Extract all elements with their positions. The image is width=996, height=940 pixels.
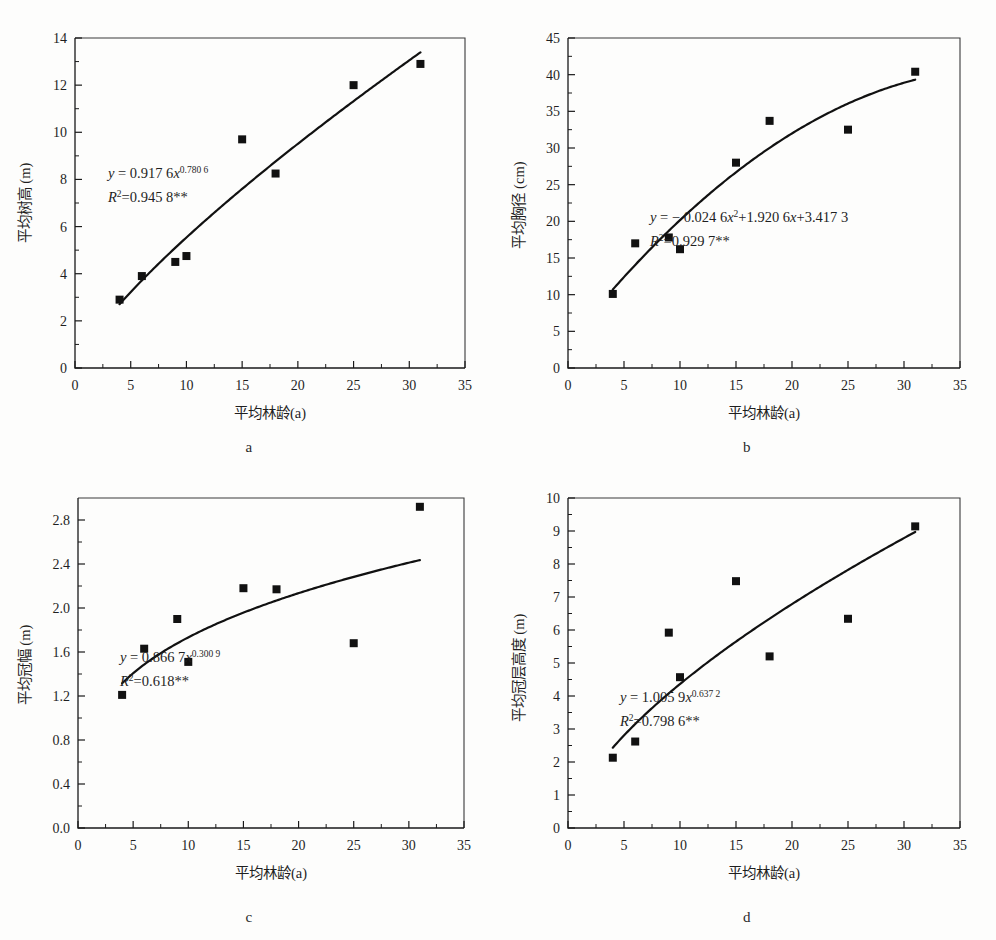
x-tick-label: 0 [565, 838, 572, 853]
panel-label-d: d [498, 909, 996, 926]
y-tick-label: 6 [60, 220, 67, 235]
data-point [631, 738, 639, 746]
data-point [138, 272, 146, 280]
x-axis-title: 平均林龄(a) [728, 405, 800, 422]
r-squared-annotation: R2=0.945 8** [107, 189, 188, 205]
y-tick-label: 14 [53, 31, 67, 46]
y-tick-label: 2 [60, 314, 67, 329]
y-tick-label: 4 [553, 689, 560, 704]
x-tick-label: 15 [729, 838, 743, 853]
y-tick-label: 20 [546, 214, 560, 229]
equation-annotation: y = − 0.024 6x2+1.920 6x+3.417 3 [648, 209, 848, 225]
y-tick-label: 6 [553, 623, 560, 638]
x-tick-label: 25 [841, 378, 855, 393]
data-point [766, 652, 774, 660]
x-tick-label: 25 [347, 378, 361, 393]
x-tick-label: 15 [236, 838, 250, 853]
data-point [732, 159, 740, 167]
panel-label-a: a [0, 439, 498, 456]
x-tick-label: 5 [127, 378, 134, 393]
x-tick-label: 20 [785, 838, 799, 853]
plot-area-d: 05101520253035012345678910平均林龄(a)平均冠层高度 … [498, 470, 996, 940]
y-tick-label: 2.0 [53, 601, 71, 616]
y-tick-label: 15 [546, 251, 560, 266]
x-tick-label: 35 [953, 838, 967, 853]
y-axis-title: 平均冠层高度 (m) [511, 614, 528, 723]
y-tick-label: 40 [546, 68, 560, 83]
x-tick-label: 25 [841, 838, 855, 853]
panel-label-c: c [0, 909, 498, 926]
data-point [911, 68, 919, 76]
data-point [118, 691, 126, 699]
data-point [350, 81, 358, 89]
y-tick-label: 1.6 [53, 645, 71, 660]
y-tick-label: 0.4 [53, 777, 71, 792]
y-tick-label: 45 [546, 31, 560, 46]
data-point [173, 615, 181, 623]
data-point [182, 252, 190, 260]
y-tick-label: 4 [60, 267, 67, 282]
y-axis-title: 平均冠幅 (m) [17, 625, 34, 706]
y-tick-label: 10 [546, 491, 560, 506]
data-point [116, 296, 124, 304]
y-tick-label: 2.8 [53, 513, 71, 528]
data-point [350, 639, 358, 647]
data-point [732, 577, 740, 585]
y-tick-label: 2 [553, 755, 560, 770]
data-point [171, 258, 179, 266]
data-point [609, 290, 617, 298]
data-point [239, 584, 247, 592]
x-axis-title: 平均林龄(a) [728, 865, 800, 882]
y-tick-label: 10 [53, 125, 67, 140]
x-tick-label: 20 [785, 378, 799, 393]
x-tick-label: 5 [130, 838, 137, 853]
data-point [416, 503, 424, 511]
x-tick-label: 0 [72, 378, 79, 393]
x-tick-label: 0 [75, 838, 82, 853]
data-point [676, 673, 684, 681]
x-tick-label: 15 [729, 378, 743, 393]
data-point [631, 239, 639, 247]
chart-panel-b: 05101520253035051015202530354045平均林龄(a)平… [498, 0, 996, 470]
y-tick-label: 0 [553, 821, 560, 836]
r-squared-annotation: R2=0.929 7** [649, 233, 730, 249]
chart-panel-a: 0510152025303502468101214平均林龄(a)平均树高 (m)… [0, 0, 498, 470]
x-tick-label: 35 [457, 838, 471, 853]
x-tick-label: 30 [402, 378, 416, 393]
y-tick-label: 0.0 [53, 821, 71, 836]
equation-annotation: y = 0.917 6x0.780 6 [106, 165, 209, 181]
y-axis-title: 平均胸径 (cm) [511, 161, 528, 248]
data-point [844, 126, 852, 134]
x-tick-label: 20 [292, 838, 306, 853]
panel-label-b: b [498, 439, 996, 456]
y-tick-label: 5 [553, 656, 560, 671]
data-point [911, 522, 919, 530]
chart-panel-d: 05101520253035012345678910平均林龄(a)平均冠层高度 … [498, 470, 996, 940]
regression-curve [613, 80, 915, 290]
data-point [665, 629, 673, 637]
y-tick-label: 8 [60, 172, 67, 187]
x-tick-label: 20 [291, 378, 305, 393]
x-tick-label: 10 [673, 838, 687, 853]
y-axis-title: 平均树高 (m) [17, 163, 34, 244]
x-tick-label: 10 [179, 378, 193, 393]
x-tick-label: 10 [673, 378, 687, 393]
x-tick-label: 30 [897, 378, 911, 393]
y-tick-label: 10 [546, 288, 560, 303]
y-tick-label: 1.2 [53, 689, 71, 704]
y-tick-label: 7 [553, 590, 560, 605]
y-tick-label: 3 [553, 722, 560, 737]
y-tick-label: 2.4 [53, 557, 71, 572]
x-tick-label: 25 [347, 838, 361, 853]
data-point [609, 754, 617, 762]
x-tick-label: 35 [458, 378, 472, 393]
data-point [272, 170, 280, 178]
data-point [766, 117, 774, 125]
y-tick-label: 35 [546, 104, 560, 119]
x-tick-label: 5 [621, 838, 628, 853]
y-tick-label: 5 [553, 324, 560, 339]
plot-area-c: 051015202530350.00.40.81.21.62.02.42.8平均… [0, 470, 498, 940]
data-point [238, 135, 246, 143]
x-tick-label: 10 [181, 838, 195, 853]
y-tick-label: 8 [553, 557, 560, 572]
